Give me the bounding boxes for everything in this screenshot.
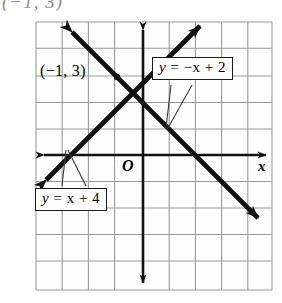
equation-label-neg-x-plus-2: y = −x + 2 [152, 57, 233, 80]
equation-body: = x + 4 [49, 190, 100, 206]
intersection-point-marker [114, 74, 120, 80]
origin-label: O [122, 157, 134, 175]
graph-figure: (−1, 3) [0, 0, 282, 303]
intersection-point-label: (−1, 3) [40, 62, 86, 80]
equation-body: = −x + 2 [166, 59, 226, 75]
equation-label-x-plus-4: y = x + 4 [35, 188, 107, 211]
x-axis-label: x [258, 158, 266, 175]
coordinate-plane-svg [0, 0, 282, 303]
